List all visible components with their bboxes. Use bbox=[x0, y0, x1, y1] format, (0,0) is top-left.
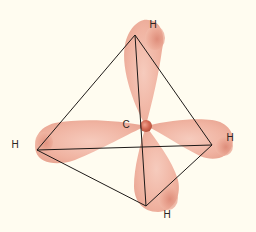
hydrogen-label-top: H bbox=[149, 20, 156, 30]
edge-left-bottom bbox=[37, 150, 146, 206]
tetrahedron-svg bbox=[0, 0, 256, 232]
hydrogen-label-left: H bbox=[11, 140, 18, 150]
hydrogen-label-right: H bbox=[226, 133, 233, 143]
hydrogen-label-bottom: H bbox=[163, 210, 170, 220]
methane-diagram: C H H H H bbox=[0, 0, 256, 232]
carbon-nucleus bbox=[140, 120, 152, 132]
carbon-label: C bbox=[122, 120, 129, 130]
orbital-lobe-top bbox=[124, 20, 165, 126]
